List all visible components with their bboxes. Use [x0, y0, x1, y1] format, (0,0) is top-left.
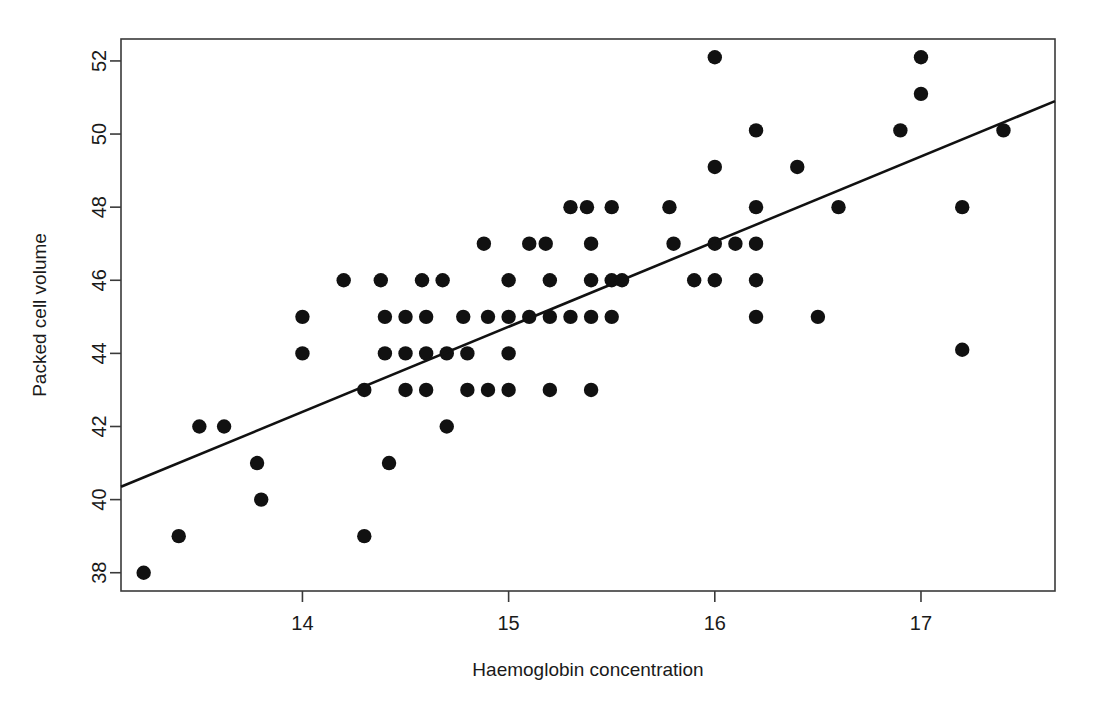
y-tick-label: 52: [88, 50, 110, 72]
data-point: [914, 87, 928, 101]
x-axis-title: Haemoglobin concentration: [472, 659, 703, 680]
data-point: [357, 529, 371, 543]
data-point: [584, 273, 598, 287]
data-point: [254, 492, 268, 506]
data-point: [295, 310, 309, 324]
data-point: [501, 383, 515, 397]
scatter-plot-figure: 3840424446485052 14151617 Haemoglobin co…: [0, 0, 1095, 710]
data-point: [250, 456, 264, 470]
data-point: [790, 160, 804, 174]
data-point: [749, 200, 763, 214]
x-tick-label: 17: [910, 612, 932, 634]
data-point: [708, 273, 722, 287]
data-point: [749, 273, 763, 287]
data-point: [456, 310, 470, 324]
data-point: [666, 237, 680, 251]
data-point: [481, 383, 495, 397]
data-point: [893, 123, 907, 137]
data-point: [192, 419, 206, 433]
data-point: [584, 383, 598, 397]
data-point: [605, 200, 619, 214]
data-point: [419, 310, 433, 324]
y-tick-label: 46: [88, 269, 110, 291]
data-point: [749, 310, 763, 324]
data-point: [501, 310, 515, 324]
data-point: [336, 273, 350, 287]
plot-canvas: 3840424446485052 14151617 Haemoglobin co…: [0, 0, 1095, 710]
scatter-points-layer: [136, 50, 1010, 580]
regression-line-layer: [121, 101, 1055, 487]
data-point: [563, 200, 577, 214]
data-point: [398, 383, 412, 397]
data-point: [662, 200, 676, 214]
data-point: [811, 310, 825, 324]
data-point: [749, 237, 763, 251]
data-point: [460, 383, 474, 397]
data-point: [749, 123, 763, 137]
y-axis-ticks: 3840424446485052: [88, 50, 121, 584]
data-point: [419, 383, 433, 397]
data-point: [398, 310, 412, 324]
data-point: [378, 310, 392, 324]
data-point: [584, 310, 598, 324]
data-point: [728, 237, 742, 251]
data-point: [481, 310, 495, 324]
data-point: [687, 273, 701, 287]
data-point: [563, 310, 577, 324]
data-point: [398, 346, 412, 360]
data-point: [295, 346, 309, 360]
y-tick-label: 38: [88, 562, 110, 584]
data-point: [914, 50, 928, 64]
data-point: [172, 529, 186, 543]
x-tick-label: 15: [497, 612, 519, 634]
data-point: [382, 456, 396, 470]
data-point: [580, 200, 594, 214]
data-point: [440, 419, 454, 433]
x-axis-ticks: 14151617: [291, 591, 932, 634]
data-point: [217, 419, 231, 433]
data-point: [831, 200, 845, 214]
data-point: [501, 273, 515, 287]
data-point: [435, 273, 449, 287]
data-point: [543, 273, 557, 287]
data-point: [477, 237, 491, 251]
data-point: [605, 310, 619, 324]
y-tick-label: 44: [88, 342, 110, 364]
y-tick-label: 48: [88, 196, 110, 218]
data-point: [708, 50, 722, 64]
regression-line: [121, 101, 1055, 487]
data-point: [378, 346, 392, 360]
data-point: [374, 273, 388, 287]
data-point: [708, 160, 722, 174]
data-point: [522, 237, 536, 251]
y-axis-title: Packed cell volume: [29, 233, 50, 397]
data-point: [136, 566, 150, 580]
data-point: [955, 343, 969, 357]
x-tick-label: 14: [291, 612, 313, 634]
x-tick-label: 16: [704, 612, 726, 634]
data-point: [543, 383, 557, 397]
data-point: [460, 346, 474, 360]
data-point: [584, 237, 598, 251]
data-point: [501, 346, 515, 360]
data-point: [955, 200, 969, 214]
y-tick-label: 40: [88, 488, 110, 510]
data-point: [539, 237, 553, 251]
y-tick-label: 42: [88, 415, 110, 437]
y-tick-label: 50: [88, 123, 110, 145]
data-point: [415, 273, 429, 287]
